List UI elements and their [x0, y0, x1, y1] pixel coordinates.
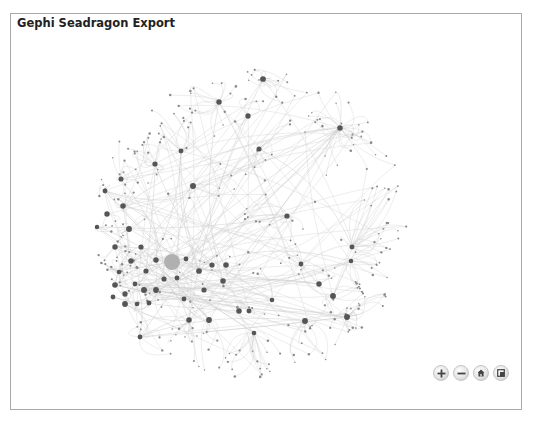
seadragon-viewer[interactable]	[11, 14, 523, 411]
viewer-controls	[433, 365, 509, 381]
fullscreen-icon	[497, 369, 505, 377]
zoom-out-button[interactable]	[453, 365, 469, 381]
hub-node	[164, 254, 180, 270]
viewer-frame: Gephi Seadragon Export	[10, 13, 522, 410]
home-icon	[477, 369, 485, 377]
zoom-in-button[interactable]	[433, 365, 449, 381]
plus-icon	[437, 369, 446, 378]
minus-icon	[457, 369, 466, 378]
network-graph[interactable]	[11, 14, 523, 411]
home-button[interactable]	[473, 365, 489, 381]
fullscreen-button[interactable]	[493, 365, 509, 381]
page-title: Gephi Seadragon Export	[17, 16, 175, 30]
